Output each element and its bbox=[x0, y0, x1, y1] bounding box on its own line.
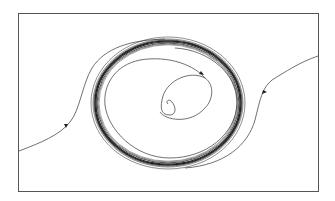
phase-portrait-diagram bbox=[0, 0, 335, 201]
